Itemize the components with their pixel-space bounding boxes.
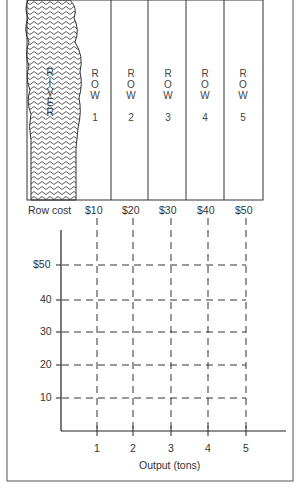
river-label: R I V E R [44, 68, 56, 118]
row-2-label: ROW 2 [124, 68, 138, 123]
row-4-label: ROW 4 [198, 68, 212, 123]
row-3-label: ROW 3 [161, 68, 175, 123]
vertical-guides [97, 218, 246, 428]
y-tick-30: 30 [40, 325, 52, 337]
row-5-label: ROW 5 [236, 68, 250, 123]
row-cost-label: Row cost [28, 204, 71, 216]
x-tick-2: 2 [130, 442, 136, 454]
row-4-cost: $40 [197, 204, 215, 216]
horizontal-guides [62, 265, 246, 398]
y-tick-50: $50 [33, 258, 51, 270]
y-tick-10: 10 [40, 391, 52, 403]
row-1-cost: $10 [85, 204, 103, 216]
x-tick-5: 5 [243, 442, 249, 454]
row-3-cost: $30 [159, 204, 177, 216]
x-tick-3: 3 [168, 442, 174, 454]
y-tick-20: 20 [40, 358, 52, 370]
x-tick-1: 1 [94, 442, 100, 454]
x-axis-label: Output (tons) [139, 459, 200, 471]
row-2-cost: $20 [122, 204, 140, 216]
row-5-cost: $50 [235, 204, 253, 216]
y-tick-40: 40 [40, 293, 52, 305]
x-tick-4: 4 [205, 442, 211, 454]
row-1-label: ROW 1 [88, 68, 102, 123]
